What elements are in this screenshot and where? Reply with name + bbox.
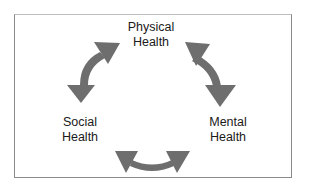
node-label-line1: Physical <box>126 20 176 35</box>
bidirectional-arrow-physical-social-icon <box>67 42 120 103</box>
node-physical-health: Physical Health <box>126 20 176 50</box>
node-label-line1: Social <box>58 115 102 130</box>
node-label-line1: Mental <box>205 115 251 130</box>
node-social-health: Social Health <box>58 115 102 145</box>
node-label-line2: Health <box>58 130 102 145</box>
bidirectional-arrow-physical-mental-icon <box>185 42 236 107</box>
bidirectional-arrow-social-mental-icon <box>115 151 190 173</box>
node-mental-health: Mental Health <box>205 115 251 145</box>
node-label-line2: Health <box>205 130 251 145</box>
node-label-line2: Health <box>126 35 176 50</box>
